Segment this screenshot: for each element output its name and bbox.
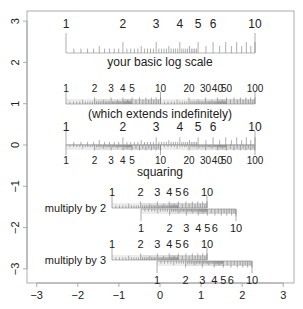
- x-tick-label: 3: [280, 289, 286, 301]
- scale-bottom-label: 1: [138, 222, 144, 234]
- scale-caption: multiply by 2: [45, 202, 106, 214]
- scale-top-label: 6: [183, 186, 189, 198]
- scale-bottom-label: 100: [247, 155, 264, 166]
- scale-bottom-label: 5: [220, 274, 226, 286]
- scale-top-label: 2: [138, 238, 144, 250]
- scale-label: 2: [120, 17, 127, 31]
- scale-top-label: 3: [154, 186, 160, 198]
- scale-top-label: 1: [109, 238, 115, 250]
- scale-label: 30: [200, 83, 212, 94]
- x-tick-label: −1: [113, 289, 126, 301]
- x-tick-label: 1: [198, 289, 204, 301]
- scale-bottom-label: 5: [129, 155, 135, 166]
- scale-label: 5: [129, 83, 135, 94]
- scale-top-label: 4: [166, 238, 172, 250]
- scale-bottom-label: 10: [246, 274, 258, 286]
- scale-bottom-label: 2: [92, 155, 98, 166]
- scale-bottom-label: 50: [221, 155, 233, 166]
- y-tick-label: 0: [9, 142, 21, 148]
- scale-top-label: 1: [63, 120, 70, 134]
- scale-label: 3: [153, 17, 160, 31]
- scale-top-label: 2: [120, 120, 127, 134]
- scale-label: 10: [248, 17, 262, 31]
- scale-bottom-label: 20: [183, 155, 195, 166]
- scale-label: 1: [63, 17, 70, 31]
- scale-bottom-label: 3: [183, 222, 189, 234]
- scale-label: 5: [195, 17, 202, 31]
- scale-top-label: 10: [248, 120, 262, 134]
- scale-multiply2: 1234561012345610multiply by 2: [45, 186, 242, 234]
- x-tick-label: −2: [72, 289, 85, 301]
- scale-bottom-label: 2: [183, 274, 189, 286]
- scale-label: 50: [221, 83, 233, 94]
- scale-bottom-label: 30: [200, 155, 212, 166]
- scale-bottom-label: 4: [211, 274, 217, 286]
- scale-bottom-label: 4: [120, 155, 126, 166]
- y-axis: 3210−1−2−3: [9, 18, 27, 275]
- scale-bottom-label: 1: [154, 274, 160, 286]
- y-tick-label: 2: [9, 59, 21, 65]
- scale-caption: squaring: [137, 165, 183, 179]
- x-tick-label: 0: [157, 289, 163, 301]
- x-tick-label: 2: [239, 289, 245, 301]
- scale-basic: 12345610your basic log scale: [63, 17, 262, 69]
- scale-top-label: 2: [138, 186, 144, 198]
- scale-top-label: 1: [109, 186, 115, 198]
- y-tick-label: −3: [9, 263, 21, 276]
- scale-label: 20: [183, 83, 195, 94]
- y-tick-label: 1: [9, 101, 21, 107]
- y-tick-label: 3: [9, 18, 21, 24]
- scale-bottom-label: 3: [108, 155, 114, 166]
- scale-top-label: 6: [210, 120, 217, 134]
- scale-bottom-label: 3: [199, 274, 205, 286]
- scale-label: 6: [210, 17, 217, 31]
- scales: 12345610your basic log scale123451020304…: [45, 17, 264, 286]
- scale-multiply3: 1234561012345610multiply by 3: [45, 238, 258, 286]
- scale-label: 100: [247, 83, 264, 94]
- slide-rule-chart: −3−2−10123 3210−1−2−3 12345610your basic…: [0, 0, 303, 309]
- scale-top-label: 4: [166, 186, 172, 198]
- scale-top-label: 10: [201, 238, 213, 250]
- scale-extends: 123451020304050100(which extends indefin…: [63, 83, 264, 121]
- scale-caption: your basic log scale: [107, 55, 213, 69]
- scale-label: 4: [120, 83, 126, 94]
- scale-label: 1: [63, 83, 69, 94]
- scale-label: 2: [92, 83, 98, 94]
- scale-bottom-label: 2: [167, 222, 173, 234]
- scale-squaring: 12345610123451020304050100squaring: [63, 120, 264, 179]
- scale-caption: multiply by 3: [45, 254, 106, 266]
- scale-label: 3: [108, 83, 114, 94]
- scale-bottom-label: 4: [195, 222, 201, 234]
- scale-bottom-label: 6: [212, 222, 218, 234]
- y-tick-label: −2: [9, 221, 21, 234]
- scale-bottom-label: 1: [63, 155, 69, 166]
- scale-bottom-label: 5: [204, 222, 210, 234]
- scale-label: 10: [155, 83, 167, 94]
- scale-top-label: 6: [183, 238, 189, 250]
- scale-top-label: 4: [176, 120, 183, 134]
- y-tick-label: −1: [9, 180, 21, 193]
- scale-top-label: 5: [175, 238, 181, 250]
- scale-top-label: 3: [154, 238, 160, 250]
- scale-bottom-label: 6: [228, 274, 234, 286]
- scale-top-label: 5: [195, 120, 202, 134]
- scale-caption: (which extends indefinitely): [88, 107, 232, 121]
- scale-top-label: 5: [175, 186, 181, 198]
- scale-label: 4: [176, 17, 183, 31]
- scale-top-label: 3: [153, 120, 160, 134]
- scale-top-label: 10: [201, 186, 213, 198]
- scale-bottom-label: 10: [230, 222, 242, 234]
- x-tick-label: −3: [30, 289, 43, 301]
